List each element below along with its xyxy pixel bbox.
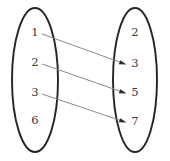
- right-element-7: 7: [131, 114, 138, 128]
- right-element-5: 5: [131, 85, 138, 99]
- right-element-3: 3: [131, 56, 138, 70]
- left-element-1: 1: [31, 25, 38, 39]
- diagram-canvas: 1 2 3 6 2 3 5 7: [0, 0, 170, 161]
- left-element-2: 2: [31, 55, 38, 69]
- left-element-3: 3: [31, 85, 38, 99]
- arrow-1-to-3: [42, 34, 127, 65]
- left-element-6: 6: [31, 113, 38, 127]
- mapping-diagram: 1 2 3 6 2 3 5 7: [0, 0, 170, 161]
- right-element-2: 2: [131, 25, 138, 39]
